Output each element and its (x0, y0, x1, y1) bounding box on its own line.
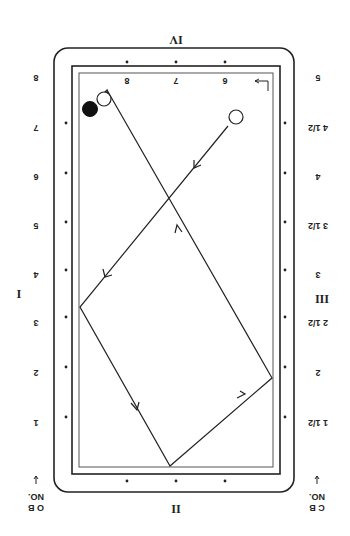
arrow-icon (237, 391, 245, 398)
arrow-icon (175, 225, 182, 233)
svg-text:8: 8 (33, 73, 38, 83)
left-diamond-numbers: 8 7 6 5 4 3 2 1 (33, 73, 38, 428)
right-diamonds (284, 122, 287, 419)
svg-text:7: 7 (173, 76, 178, 86)
svg-text:NO.: NO. (309, 492, 325, 502)
rail-label-right: III (315, 292, 329, 306)
svg-text:3: 3 (33, 318, 38, 328)
svg-text:4 1/2: 4 1/2 (308, 123, 328, 133)
svg-text:4: 4 (33, 270, 38, 280)
rail-label-bottom: II (171, 502, 181, 516)
rail-label-left: I (16, 287, 21, 301)
rail-label-top: IV (169, 33, 183, 47)
left-diamonds (65, 122, 68, 419)
cue-ball-white (229, 110, 243, 124)
svg-text:5: 5 (315, 73, 320, 83)
svg-text:2: 2 (33, 368, 38, 378)
svg-text:3: 3 (315, 270, 320, 280)
svg-text:C B: C B (309, 503, 325, 513)
svg-text:4: 4 (315, 172, 320, 182)
svg-text:5: 5 (33, 221, 38, 231)
svg-text:6: 6 (222, 76, 227, 86)
svg-text:2: 2 (315, 368, 320, 378)
corner-bracket-arrow-icon (255, 79, 268, 91)
object-ball-white (97, 92, 111, 106)
svg-text:2 1/2: 2 1/2 (308, 318, 328, 328)
right-diamond-numbers: 5 4 1/2 4 3 1/2 3 2 1/2 2 1 1/2 (308, 73, 328, 428)
billiards-diagram: IV II I III 8 7 6 5 4 3 2 1 5 4 1/2 4 3 … (0, 0, 350, 536)
svg-text:8: 8 (124, 76, 129, 86)
svg-text:1 1/2: 1 1/2 (308, 418, 328, 428)
corner-label-object-ball: NO. O B (28, 476, 45, 513)
svg-text:1: 1 (33, 418, 38, 428)
svg-text:6: 6 (33, 172, 38, 182)
object-ball-black (83, 102, 98, 117)
top-diamonds (126, 61, 227, 64)
shot-path (80, 90, 272, 466)
svg-text:3 1/2: 3 1/2 (308, 221, 328, 231)
corner-label-cue-ball: NO. C B (309, 476, 325, 513)
inner-top-numbers: 8 7 6 (124, 76, 227, 86)
svg-text:NO.: NO. (28, 492, 44, 502)
table-cushion (79, 73, 273, 467)
svg-text:7: 7 (33, 123, 38, 133)
bottom-diamonds (126, 480, 227, 483)
svg-text:O B: O B (28, 503, 45, 513)
